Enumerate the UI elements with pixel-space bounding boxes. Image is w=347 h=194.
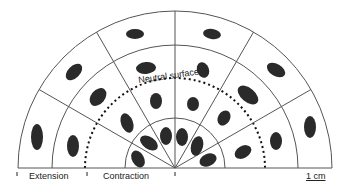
cell-ellipse xyxy=(187,97,199,111)
cell-ellipse xyxy=(67,135,79,157)
cell-ellipse xyxy=(270,132,282,150)
scale-bar-label: 1 cm xyxy=(306,171,326,181)
cell-ellipse xyxy=(31,124,43,150)
cell-ellipse xyxy=(137,132,160,153)
cell-ellipse xyxy=(202,28,221,41)
cell-ellipse xyxy=(128,148,147,170)
contraction-label: Contraction xyxy=(103,171,149,181)
cell-ellipse xyxy=(176,128,188,146)
cell-ellipse xyxy=(150,93,162,109)
cell-ellipse xyxy=(304,116,316,138)
cell-ellipse xyxy=(63,61,86,84)
cell-ellipse xyxy=(86,85,110,109)
cell-ellipse xyxy=(160,127,172,145)
cell-ellipse xyxy=(126,29,144,39)
cell-ellipse xyxy=(264,60,287,80)
radial-line xyxy=(97,32,176,168)
fold-cross-section-diagram: Neutral surface xyxy=(0,0,347,194)
cell-ellipse xyxy=(232,142,254,161)
cell-ellipse xyxy=(189,135,206,157)
cell-ellipse xyxy=(118,112,136,135)
extension-label: Extension xyxy=(29,171,69,181)
cell-ellipse xyxy=(215,108,233,128)
